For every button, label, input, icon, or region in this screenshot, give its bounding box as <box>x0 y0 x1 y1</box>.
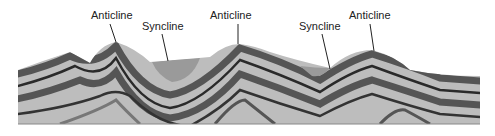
label-anticline-2: Anticline <box>210 10 252 21</box>
label-syncline-2: Syncline <box>299 21 341 32</box>
label-anticline-3: Anticline <box>349 10 391 21</box>
label-syncline-1: Syncline <box>142 21 184 32</box>
label-anticline-1: Anticline <box>91 10 133 21</box>
